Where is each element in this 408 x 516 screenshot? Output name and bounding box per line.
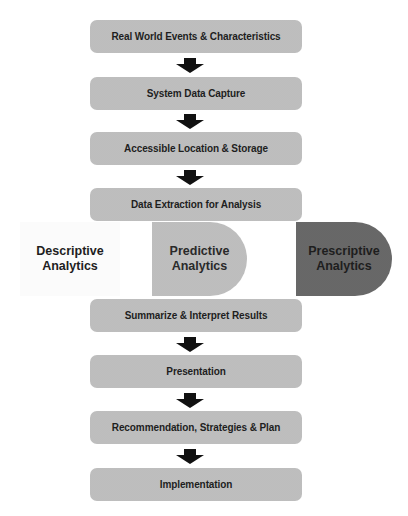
prescriptive-line2: Analytics [308, 259, 380, 274]
down-arrow-icon [176, 449, 204, 464]
step-real-world-events: Real World Events & Characteristics [90, 20, 302, 53]
step-system-data-capture: System Data Capture [90, 77, 302, 110]
prescriptive-line1: Prescriptive [308, 244, 380, 259]
down-arrow-icon [176, 170, 204, 185]
step-implementation: Implementation [90, 468, 302, 501]
step-label: Real World Events & Characteristics [111, 31, 280, 42]
step-recommendation: Recommendation, Strategies & Plan [90, 411, 302, 444]
predictive-line1: Predictive [170, 244, 230, 259]
step-label: Recommendation, Strategies & Plan [112, 422, 280, 433]
descriptive-analytics: DescriptiveAnalytics [20, 222, 120, 296]
step-label: Data Extraction for Analysis [131, 199, 261, 210]
predictive-line2: Analytics [170, 259, 230, 274]
step-presentation: Presentation [90, 355, 302, 388]
step-label: Implementation [160, 479, 233, 490]
descriptive-line1: Descriptive [36, 244, 103, 259]
descriptive-line2: Analytics [36, 259, 103, 274]
prescriptive-analytics: PrescriptiveAnalytics [296, 222, 392, 296]
step-summarize-interpret: Summarize & Interpret Results [90, 299, 302, 332]
down-arrow-icon [176, 114, 204, 129]
step-label: Presentation [166, 366, 225, 377]
down-arrow-icon [176, 337, 204, 352]
down-arrow-icon [176, 58, 204, 73]
step-label: Summarize & Interpret Results [125, 310, 268, 321]
step-accessible-location-storage: Accessible Location & Storage [90, 132, 302, 165]
predictive-analytics: PredictiveAnalytics [152, 222, 247, 296]
step-data-extraction: Data Extraction for Analysis [90, 188, 302, 221]
step-label: System Data Capture [147, 88, 246, 99]
down-arrow-icon [176, 393, 204, 408]
step-label: Accessible Location & Storage [124, 143, 268, 154]
